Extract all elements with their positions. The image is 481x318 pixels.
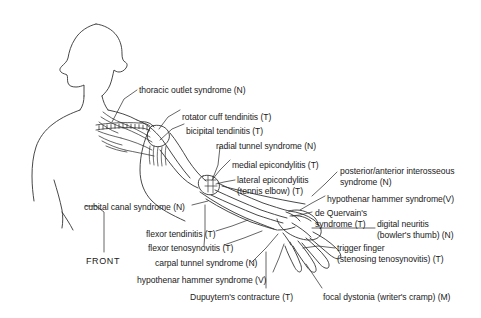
leader-cubital-vert [96, 206, 104, 252]
clavicle [96, 123, 150, 131]
torso-outline-side [62, 212, 73, 230]
leader-medial-epi [212, 160, 230, 180]
annotation-line: (tennis elbow) (T) [237, 186, 309, 197]
hand-thumb [289, 210, 318, 225]
annotation-line: posterior/anterior interosseous [340, 166, 455, 177]
annotation-line: carpal tunnel syndrome (N) [155, 258, 257, 269]
hand-hypothenar [283, 233, 291, 245]
annotation-focal-dystonia: focal dystonia (writer's cramp) (M) [323, 292, 450, 303]
annotation-line: (bowler's thumb) (N) [377, 230, 454, 241]
annotation-flexor-tendinitis: flexor tendinitis (T) [146, 229, 216, 240]
annotation-line: (stenosing tenosynovitis) (T) [337, 254, 444, 265]
annotation-rotator-cuff-tendinitis: rotator cuff tendinitis (T) [182, 112, 271, 123]
annotation-flexor-tenosynovitis: flexor tenosynovitis (T) [148, 243, 233, 254]
annotation-line: hypothenar hammer syndrome (V) [137, 275, 266, 286]
annotation-line: hypothenar hammer syndrome(V) [327, 194, 454, 205]
torso-outline-chest [54, 180, 63, 228]
annotation-hypothenar-hammer-syndrome-v-upper: hypothenar hammer syndrome(V) [327, 194, 454, 205]
annotation-line: trigger finger [337, 243, 444, 254]
annotation-de-quervains-syndrome: de Quervain'ssyndrome (T) [315, 208, 367, 229]
annotation-medial-epicondylitis: medial epicondylitis (T) [232, 160, 319, 171]
annotation-dupuytrens-contracture: Dupuytern's contracture (T) [190, 292, 293, 303]
annotation-line: Dupuytern's contracture (T) [190, 292, 293, 303]
annotation-line: radial tunnel syndrome (N) [216, 141, 316, 152]
neck-back [102, 96, 108, 110]
leader-cubital-arm [192, 201, 208, 205]
head-profile-back [96, 24, 127, 96]
leader-flexor-tendinitis [216, 220, 248, 231]
annotation-line: lateral epicondylitis [237, 175, 309, 186]
shoulder-capsule [149, 146, 166, 166]
annotation-line: syndrome (T) [315, 219, 367, 230]
leader-focal-dystonia [306, 264, 322, 288]
leader-cubital [204, 205, 205, 246]
diagram-canvas: FRONT thoracic outlet syndrome (N)rotato… [0, 0, 481, 318]
leader-thoracic-outlet [112, 90, 137, 122]
shoulder-joint-head [147, 125, 169, 146]
annotation-line: thoracic outlet syndrome (N) [139, 85, 246, 96]
view-label-front: FRONT [86, 256, 120, 266]
annotation-line: syndrome (N) [340, 177, 455, 188]
annotation-lateral-epicondylitis: lateral epicondylitis(tennis elbow) (T) [237, 175, 309, 196]
annotation-line: digital neuritis [377, 219, 454, 230]
anatomical-figure [0, 0, 481, 318]
leader-trigger-finger [303, 246, 335, 248]
annotation-line: flexor tendinitis (T) [146, 229, 216, 240]
leader-interosseous [312, 172, 337, 196]
annotation-hypothenar-hammer-syndrome-v-lower: hypothenar hammer syndrome (V) [137, 275, 266, 286]
annotation-line: medial epicondylitis (T) [232, 160, 319, 171]
leader-hypothenar-lower [273, 244, 284, 272]
annotation-carpal-tunnel-syndrome: carpal tunnel syndrome (N) [155, 258, 257, 269]
annotation-posterior-anterior-interosseous-syndrome: posterior/anterior interosseoussyndrome … [340, 166, 455, 187]
annotation-digital-neuritis: digital neuritis(bowler's thumb) (N) [377, 219, 454, 240]
annotation-line: rotator cuff tendinitis (T) [182, 112, 271, 123]
humerus-lateral [170, 133, 206, 181]
annotation-line: cubital canal syndrome (N) [84, 202, 185, 213]
humerus-medial [160, 150, 198, 188]
wrist [286, 212, 300, 221]
wrist-lower [278, 227, 295, 230]
annotation-bicipital-tendinitis: bicipital tendinitis (T) [186, 126, 263, 137]
leader-radial-tunnel [213, 147, 220, 178]
annotation-line: focal dystonia (writer's cramp) (M) [323, 292, 450, 303]
elbow-joint [198, 175, 219, 195]
annotation-line: de Quervain's [315, 208, 367, 219]
annotation-cubital-canal-syndrome: cubital canal syndrome (N) [84, 202, 185, 213]
annotation-line: bicipital tendinitis (T) [186, 126, 263, 137]
annotation-trigger-finger: trigger finger(stenosing tenosynovitis) … [337, 243, 444, 264]
head-profile [60, 24, 96, 96]
brachial-plexus [98, 112, 154, 156]
annotation-line: flexor tenosynovitis (T) [148, 243, 233, 254]
neck-front [80, 96, 84, 110]
leader-de-quervain [290, 212, 312, 216]
annotation-radial-tunnel-syndrome: radial tunnel syndrome (N) [216, 141, 316, 152]
hand-palm-crease [292, 223, 311, 237]
annotation-thoracic-outlet-syndrome: thoracic outlet syndrome (N) [139, 85, 246, 96]
